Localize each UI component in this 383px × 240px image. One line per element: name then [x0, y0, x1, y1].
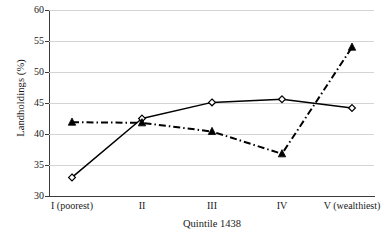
y-tick-label: 40: [18, 129, 44, 139]
y-tick-label: 35: [18, 160, 44, 170]
plot-area: [49, 10, 374, 196]
x-tick-label: V (wealthiest): [324, 199, 381, 212]
x-tick-label: II: [139, 199, 146, 212]
y-tick-label: 50: [18, 67, 44, 77]
data-series-layer: [49, 10, 374, 196]
y-axis-tick-labels: 60 55 50 45 40 35 30: [14, 0, 44, 240]
data-point-marker: [349, 105, 356, 112]
x-tick-label: III: [207, 199, 217, 212]
x-tick-label: I (poorest): [51, 199, 93, 212]
chart-figure: Landholdings (%) 60 55 50 45 40 35 30 I …: [0, 0, 383, 240]
x-tick-label: IV: [277, 199, 288, 212]
data-point-marker: [208, 127, 215, 134]
y-tick-mark: [45, 196, 49, 197]
y-tick-label: 45: [18, 98, 44, 108]
data-point-marker: [209, 99, 216, 106]
y-tick-label: 55: [18, 36, 44, 46]
data-point-marker: [348, 43, 355, 50]
data-point-marker: [279, 96, 286, 103]
x-axis-tick-labels: I (poorest) II III IV V (wealthiest): [49, 199, 375, 215]
x-axis-label: Quintile 1438: [49, 217, 375, 230]
y-tick-label: 30: [18, 191, 44, 201]
y-tick-label: 60: [18, 5, 44, 15]
x-axis-line: [49, 196, 375, 197]
